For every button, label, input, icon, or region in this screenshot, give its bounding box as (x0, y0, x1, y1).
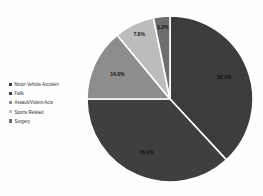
pie-slice-value-label: 38.1% (217, 74, 232, 80)
legend-item-surgery[interactable]: Surgery (9, 117, 87, 126)
legend-swatch-icon (9, 101, 12, 104)
pie-slice-value-label: 14.0% (110, 71, 125, 77)
pie-graphic: 38.1%36.9%14.0%7.8%3.2% (86, 8, 256, 190)
pie-slice-value-label: 7.8% (133, 31, 145, 37)
legend-swatch-icon (9, 119, 12, 122)
legend-swatch-icon (9, 92, 12, 95)
legend-item-label: Surgery (15, 117, 30, 126)
chart-legend: Motor Vehicle Accident Falls Assault/Vio… (9, 80, 87, 126)
legend-item-label: Assault/Violent Acts (15, 98, 53, 107)
pie-slice-value-label: 36.9% (140, 149, 155, 155)
legend-item-label: Sports Related (15, 107, 44, 116)
legend-swatch-icon (9, 110, 12, 113)
legend-item-assault-violent-acts[interactable]: Assault/Violent Acts (9, 98, 87, 107)
pie-chart-figure: Motor Vehicle Accident Falls Assault/Vio… (0, 0, 263, 196)
legend-item-sports-related[interactable]: Sports Related (9, 108, 87, 117)
pie-slice-value-label: 3.2% (157, 24, 169, 30)
pie-slices (87, 16, 253, 182)
pie-svg: 38.1%36.9%14.0%7.8%3.2% (86, 8, 256, 190)
legend-item-label: Motor Vehicle Accident (15, 80, 59, 89)
legend-swatch-icon (9, 83, 12, 86)
legend-item-motor-vehicle-accident[interactable]: Motor Vehicle Accident (9, 80, 87, 89)
